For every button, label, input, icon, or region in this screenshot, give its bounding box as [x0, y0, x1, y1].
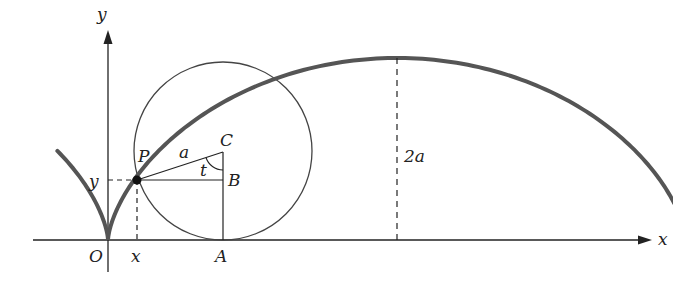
- angle-arc: [206, 158, 223, 171]
- angle-label: t: [200, 160, 207, 180]
- x-coord-label: x: [131, 246, 141, 266]
- y-axis-arrow-icon: [104, 30, 113, 44]
- point-A-label: A: [213, 246, 227, 266]
- x-axis-arrow-icon: [638, 236, 652, 245]
- point-C-label: C: [220, 130, 233, 150]
- cycloid-curve: [57, 58, 673, 240]
- point-P-label: P: [137, 146, 150, 166]
- cycloid-diagram: y x O x y P C B A a t 2a: [0, 0, 673, 283]
- origin-label: O: [89, 246, 103, 266]
- x-axis-label: x: [658, 229, 668, 249]
- y-axis-label: y: [96, 4, 107, 24]
- point-P-dot: [133, 176, 142, 185]
- radius-label: a: [179, 142, 189, 162]
- height-label: 2a: [403, 146, 425, 166]
- y-coord-label: y: [88, 171, 99, 191]
- point-B-label: B: [227, 170, 241, 190]
